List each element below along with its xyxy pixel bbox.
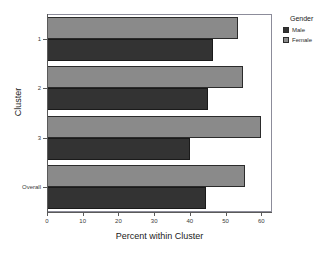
- bar-chart: 0102030405060 123Overall Percent within …: [0, 0, 336, 254]
- bar-3-female: [47, 116, 261, 138]
- y-tick-label-1: 1: [38, 35, 41, 43]
- y-tick-label-2: 2: [38, 84, 41, 92]
- x-tick-20: [118, 212, 119, 216]
- y-tick-overall: [43, 187, 47, 188]
- x-tick-label-40: 40: [187, 217, 194, 225]
- y-axis-title: Cluster: [12, 62, 24, 142]
- bar-1-male: [47, 39, 213, 61]
- x-tick-30: [154, 212, 155, 216]
- x-tick-60: [261, 212, 262, 216]
- x-tick-40: [190, 212, 191, 216]
- y-axis-line: [47, 14, 48, 212]
- bar-2-female: [47, 66, 243, 88]
- legend-swatch-icon-female: [283, 37, 289, 43]
- legend-label-female: Female: [292, 36, 312, 44]
- x-tick-label-0: 0: [45, 217, 48, 225]
- y-tick-2: [43, 88, 47, 89]
- x-axis-line: [47, 212, 272, 213]
- x-tick-label-50: 50: [222, 217, 229, 225]
- bar-3-male: [47, 138, 190, 160]
- legend-label-male: Male: [292, 26, 305, 34]
- y-tick-3: [43, 138, 47, 139]
- legend-swatch-icon-male: [283, 27, 289, 33]
- legend-item-female: Female: [283, 36, 335, 44]
- legend-entries: MaleFemale: [283, 26, 335, 44]
- bar-layer: [47, 14, 272, 212]
- x-tick-label-20: 20: [115, 217, 122, 225]
- x-tick-label-60: 60: [258, 217, 265, 225]
- bar-2-male: [47, 88, 208, 110]
- x-tick-label-10: 10: [79, 217, 86, 225]
- bar-overall-male: [47, 187, 206, 209]
- x-tick-10: [83, 212, 84, 216]
- bar-overall-female: [47, 165, 245, 187]
- legend-title: Gender: [290, 14, 335, 23]
- legend: Gender MaleFemale: [283, 14, 335, 46]
- y-tick-label-3: 3: [38, 134, 41, 142]
- y-tick-1: [43, 39, 47, 40]
- x-axis-title: Percent within Cluster: [47, 230, 272, 242]
- x-tick-label-30: 30: [151, 217, 158, 225]
- legend-item-male: Male: [283, 26, 335, 34]
- bar-1-female: [47, 17, 238, 39]
- x-tick-50: [226, 212, 227, 216]
- y-tick-label-overall: Overall: [22, 183, 41, 191]
- x-tick-0: [47, 212, 48, 216]
